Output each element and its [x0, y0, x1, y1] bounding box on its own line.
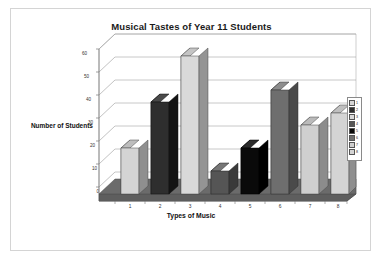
legend-item[interactable]: 1	[349, 99, 361, 106]
legend-swatch-icon	[349, 100, 355, 106]
legend-item[interactable]: 5	[349, 127, 361, 134]
legend-item[interactable]: 8	[349, 148, 361, 155]
bar-5	[241, 140, 268, 194]
legend-label: 8	[356, 150, 358, 154]
bar-2	[151, 94, 178, 194]
legend-swatch-icon	[349, 114, 355, 120]
legend-label: 3	[356, 115, 358, 119]
x-tick-label: 3	[183, 204, 197, 210]
legend-item[interactable]: 6	[349, 134, 361, 141]
legend-label: 2	[356, 108, 358, 112]
legend-item[interactable]: 2	[349, 106, 361, 113]
bar-1	[121, 140, 148, 194]
x-tick-label: 6	[273, 204, 287, 210]
x-tick-label: 1	[123, 204, 137, 210]
legend-item[interactable]: 7	[349, 141, 361, 148]
legend-label: 5	[356, 129, 358, 133]
x-tick-label: 2	[153, 204, 167, 210]
legend-swatch-icon	[349, 149, 355, 155]
legend-swatch-icon	[349, 135, 355, 141]
x-tick-label: 4	[213, 204, 227, 210]
legend-item[interactable]: 3	[349, 113, 361, 120]
legend-swatch-icon	[349, 128, 355, 134]
x-tick-label: 5	[243, 204, 257, 210]
legend-item[interactable]: 4	[349, 120, 361, 127]
legend-swatch-icon	[349, 107, 355, 113]
legend-swatch-icon	[349, 142, 355, 148]
chart-legend[interactable]: 1 2 3 4 5 6 7 8	[347, 97, 362, 161]
legend-label: 4	[356, 122, 358, 126]
x-tick-label: 7	[303, 204, 317, 210]
bar-6	[271, 82, 298, 194]
bar-3	[181, 48, 208, 194]
legend-label: 7	[356, 143, 358, 147]
legend-label: 6	[356, 136, 358, 140]
legend-label: 1	[356, 101, 358, 105]
bar-7	[301, 117, 328, 194]
chart-frame: Musical Tastes of Year 11 Students Numbe…	[10, 8, 371, 251]
plot-area	[11, 9, 372, 252]
x-tick-label: 8	[331, 204, 345, 210]
legend-swatch-icon	[349, 121, 355, 127]
